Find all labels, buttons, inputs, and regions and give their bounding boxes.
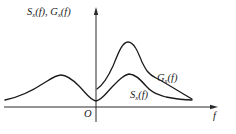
y-axis-label: Sx(f), Gx(f) <box>27 6 71 18</box>
x-axis-arrow-icon <box>210 105 218 109</box>
sx-curve-label: Sx(f) <box>130 89 149 101</box>
gx-curve-label: Gx(f) <box>157 72 178 84</box>
psd-diagram: Sx(f), Gx(f) Gx(f) Sx(f) O f <box>0 0 236 134</box>
x-axis-label: f <box>213 110 218 121</box>
origin-label: O <box>84 108 92 119</box>
y-axis-arrow-icon <box>94 7 98 15</box>
